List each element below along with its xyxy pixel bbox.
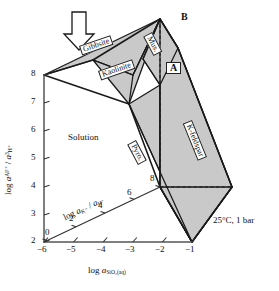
y-axis-title-den-sub: H⁺ bbox=[7, 145, 13, 152]
point-label-a: A bbox=[166, 62, 181, 74]
conditions-label: 25°C, 1 bar bbox=[213, 216, 254, 225]
x-axis-title-prefix: log bbox=[88, 265, 102, 275]
y-tick-label-3: 3 bbox=[31, 209, 36, 218]
y-tick-label-6: 6 bbox=[31, 125, 36, 134]
x-tick-label-m3: −3 bbox=[125, 245, 135, 254]
region-label-solution: Solution bbox=[68, 133, 99, 142]
x-tick-label-m1: −1 bbox=[185, 245, 195, 254]
z-tick-2 bbox=[72, 225, 77, 227]
y-axis-title-den-sup: 3 bbox=[4, 152, 10, 155]
y-tick-3 bbox=[44, 213, 50, 215]
y-tick-label-4: 4 bbox=[31, 181, 36, 190]
x-axis-title-sub: SiO₂(aq) bbox=[106, 269, 126, 275]
x-axis-title: log aSiO₂(aq) bbox=[88, 266, 126, 276]
y-tick-6 bbox=[44, 129, 50, 131]
z-tick-label-0: 0 bbox=[45, 228, 50, 237]
phase-diagram-figure: Gibbsite Kaolinite Mus. Pyro. K-feldspar… bbox=[0, 0, 279, 291]
z-tick-label-8: 8 bbox=[150, 174, 155, 183]
y-axis-title-prefix: log bbox=[3, 181, 13, 195]
point-label-b: B bbox=[181, 12, 188, 22]
z-tick-6 bbox=[130, 198, 135, 200]
x-tick-label-m5: −5 bbox=[66, 245, 76, 254]
z-axis-ticks bbox=[43, 185, 161, 240]
y-axis-title-num-sup: Al³⁺ bbox=[4, 166, 10, 176]
x-tick-label-m4: −4 bbox=[96, 245, 106, 254]
y-axis-title-den-a: a bbox=[3, 155, 13, 160]
y-tick-label-2: 2 bbox=[31, 236, 36, 245]
y-axis-title-sep: / bbox=[3, 159, 13, 166]
y-tick-4 bbox=[44, 185, 50, 187]
y-axis-title: log aAl³⁺ / a3H⁺ bbox=[4, 145, 14, 195]
x-tick-label-m2: −2 bbox=[155, 245, 165, 254]
x-tick-label-m6: −6 bbox=[37, 245, 47, 254]
y-tick-label-5: 5 bbox=[31, 153, 36, 162]
y-tick-label-8: 8 bbox=[31, 69, 36, 78]
y-axis-ticks bbox=[44, 73, 50, 242]
y-tick-7 bbox=[44, 101, 50, 103]
z-tick-4 bbox=[101, 212, 106, 214]
z-tick-label-6: 6 bbox=[127, 188, 132, 197]
y-tick-5 bbox=[44, 157, 50, 159]
y-axis-title-a: a bbox=[3, 177, 13, 182]
y-tick-label-7: 7 bbox=[31, 97, 36, 106]
